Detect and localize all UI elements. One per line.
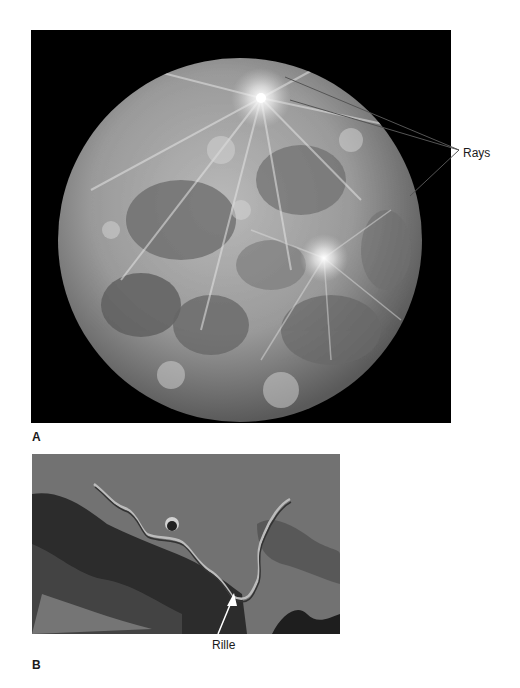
moon-image bbox=[31, 30, 451, 423]
rille-photo-panel-b bbox=[32, 454, 340, 634]
rays-label: Rays bbox=[463, 146, 490, 160]
rille-image bbox=[32, 454, 340, 634]
rille-label: Rille bbox=[212, 638, 235, 652]
moon-photo-panel-a bbox=[31, 30, 451, 423]
panel-b-letter: B bbox=[32, 658, 41, 672]
ray-crater bbox=[256, 93, 266, 103]
panel-a-letter: A bbox=[32, 430, 41, 444]
